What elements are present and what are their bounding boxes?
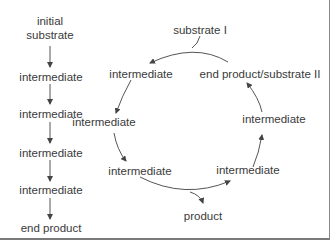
cycle-arrow-left-upper <box>116 80 131 113</box>
cycle-arrow-left-lower <box>114 133 126 161</box>
linear-step-initial-substrate: initial substrate <box>26 14 73 42</box>
cycle-node-intermediate-bottom-left: intermediate <box>108 164 171 178</box>
product-output-arrow <box>190 192 203 203</box>
initial-line: initial <box>26 14 73 28</box>
cycle-arrow-right-upper <box>247 83 262 112</box>
substrate-input-line <box>192 36 200 48</box>
cycle-node-intermediate-top-left: intermediate <box>109 67 172 81</box>
linear-step-intermediate-1: intermediate <box>19 70 82 84</box>
substrate-line: substrate <box>26 28 73 42</box>
cycle-node-end-product-substrate-2: end product/substrate II <box>200 67 321 81</box>
cycle-arrow-top <box>150 52 228 63</box>
cycle-node-intermediate-bottom-right: intermediate <box>216 163 279 177</box>
linear-step-intermediate-3: intermediate <box>19 146 82 160</box>
cycle-input-substrate-1: substrate I <box>173 23 227 37</box>
cycle-node-intermediate-right: intermediate <box>242 112 305 126</box>
cycle-arrow-bottom <box>140 177 230 190</box>
linear-step-end-product: end product <box>21 221 82 235</box>
cycle-node-intermediate-left: intermediate <box>72 115 135 129</box>
linear-step-intermediate-4: intermediate <box>19 183 82 197</box>
cycle-output-product: product <box>184 209 222 223</box>
